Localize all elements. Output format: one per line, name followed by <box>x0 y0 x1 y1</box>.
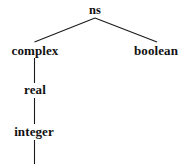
edge-ns-complex <box>35 18 96 42</box>
tree-node-complex: complex <box>12 44 59 57</box>
type-hierarchy-diagram: ns complex boolean real integer <box>0 0 186 164</box>
tree-node-boolean: boolean <box>134 44 178 57</box>
tree-node-integer: integer <box>14 125 54 138</box>
tree-node-real: real <box>24 83 46 96</box>
edge-ns-boolean <box>95 18 157 42</box>
tree-node-ns: ns <box>89 4 101 17</box>
